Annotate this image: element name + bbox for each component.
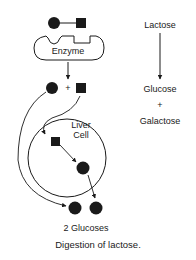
legend-glucose: Glucose	[143, 85, 176, 94]
legend-galactose: Galactose	[140, 117, 181, 126]
galactose-icon	[76, 83, 86, 93]
final-glucose-2-icon	[90, 202, 103, 215]
caption: Digestion of lactose.	[55, 240, 141, 250]
enzyme-label: Enzyme	[52, 47, 85, 56]
liver-cell	[28, 119, 106, 197]
result-label: 2 Glucoses	[63, 224, 108, 233]
glucose-bypass-arrow	[18, 92, 66, 206]
glucose-icon	[46, 82, 58, 94]
plus-sign: +	[65, 84, 70, 93]
converted-glucose-icon	[77, 162, 90, 175]
liver-cell-label-line2: Cell	[73, 131, 89, 140]
lactose-molecule-icon	[48, 17, 86, 29]
galactose-in-cell-icon	[51, 137, 60, 146]
liver-cell-label-line1: Liver	[71, 121, 91, 130]
final-glucose-1-icon	[69, 202, 82, 215]
conversion-arrow	[60, 145, 76, 162]
lactose-digestion-diagram	[0, 0, 196, 260]
legend-lactose: Lactose	[144, 21, 176, 30]
legend-plus: +	[157, 101, 162, 110]
